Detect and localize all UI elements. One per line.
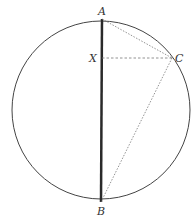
diagram-canvas: A B C X — [0, 0, 195, 220]
chord-ac — [102, 19, 172, 58]
label-x: X — [88, 52, 98, 65]
label-c: C — [175, 52, 184, 65]
label-a: A — [97, 5, 106, 18]
label-b: B — [96, 205, 105, 218]
diameter-ab — [101, 19, 102, 202]
chord-bc — [101, 58, 172, 202]
circle-diagram: A B C X — [0, 0, 195, 220]
